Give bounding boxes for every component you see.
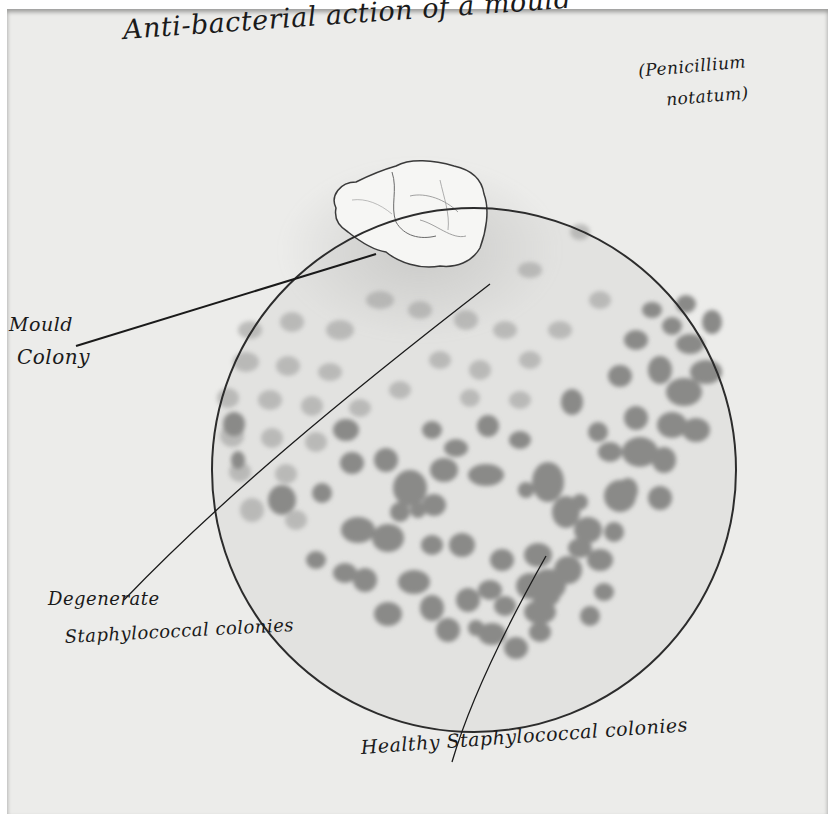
mould-colony-label-line2: Colony: [17, 345, 90, 369]
mould-colony-label-line1: Mould: [9, 313, 73, 335]
degenerate-colonies-label-line1: Degenerate: [48, 588, 160, 609]
plate-drawing: [0, 0, 828, 814]
